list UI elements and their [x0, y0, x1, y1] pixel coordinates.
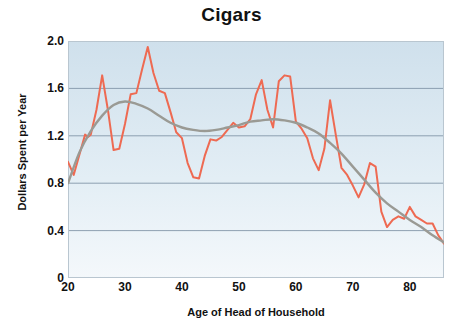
y-axis-tick-labels: 00.40.81.21.62.0 [22, 0, 64, 330]
x-axis-tick-label: 70 [346, 280, 359, 294]
y-axis-tick-label: 1.6 [30, 81, 64, 95]
chart-container: Cigars Dollars Spent per Year 00.40.81.2… [0, 0, 463, 330]
x-axis-tick-label: 50 [232, 280, 245, 294]
y-axis-tick-label: 1.2 [30, 129, 64, 143]
x-axis-tick-label: 30 [118, 280, 131, 294]
x-axis-tick-label: 80 [403, 280, 416, 294]
x-axis-tick-label: 60 [289, 280, 302, 294]
plot-area [68, 41, 444, 278]
y-axis-tick-label: 0.8 [30, 176, 64, 190]
x-axis-tick-label: 40 [175, 280, 188, 294]
plot-svg [68, 41, 444, 278]
y-axis-tick-label: 0.4 [30, 224, 64, 238]
plot-background [68, 41, 444, 278]
y-axis-tick-label: 2.0 [30, 34, 64, 48]
chart-title: Cigars [0, 4, 463, 26]
x-axis-title: Age of Head of Household [68, 306, 444, 318]
x-axis-tick-label: 20 [61, 280, 74, 294]
y-axis-tick-label: 0 [30, 271, 64, 285]
